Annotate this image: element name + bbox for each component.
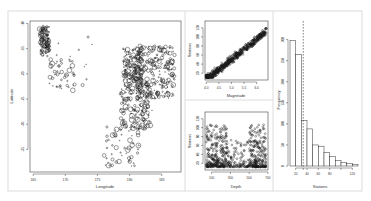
quake-point	[124, 56, 125, 57]
quake-point	[146, 111, 149, 114]
quake-point	[106, 147, 108, 149]
quake-point	[141, 55, 143, 57]
x-tick-label: 4.5	[217, 86, 222, 90]
quake-point	[157, 96, 158, 97]
quake-point	[149, 83, 153, 87]
point	[264, 133, 266, 135]
quake-point	[143, 128, 144, 129]
quake-point	[123, 49, 124, 50]
quake-point	[148, 88, 151, 91]
quake-point	[123, 67, 124, 68]
quake-point	[135, 114, 136, 115]
histogram-bar	[301, 121, 307, 166]
quake-point	[154, 82, 155, 83]
quake-point	[139, 72, 140, 73]
quake-point	[173, 53, 176, 56]
quake-point	[127, 83, 128, 84]
quake-point	[141, 123, 142, 124]
quake-point	[168, 98, 169, 99]
point	[231, 144, 233, 146]
depth-y-label: Stations	[187, 134, 192, 148]
point	[214, 148, 216, 150]
quake-point	[116, 136, 117, 137]
y-tick-label: 100	[196, 125, 200, 131]
point	[254, 131, 256, 133]
point	[216, 133, 218, 135]
y-tick-label: 100	[281, 121, 285, 127]
x-tick-label: 100	[209, 176, 215, 180]
quake-point	[102, 154, 106, 158]
quake-point	[134, 104, 136, 106]
quake-point	[150, 121, 152, 123]
x-tick-label: 500	[247, 176, 253, 180]
point	[257, 131, 259, 133]
magnitude-y-label: Stations	[187, 43, 192, 57]
quake-point	[138, 145, 139, 146]
histogram-bar	[347, 163, 353, 166]
quake-point	[70, 88, 75, 93]
quake-point	[134, 122, 135, 123]
y-tick-label: -35	[21, 147, 25, 152]
point	[210, 140, 212, 142]
y-tick-label: 150	[281, 100, 285, 106]
quake-point	[123, 102, 124, 103]
quake-point	[46, 55, 48, 57]
quake-point	[108, 162, 109, 163]
point	[262, 151, 264, 153]
quake-point	[152, 64, 153, 65]
quake-point	[143, 92, 144, 93]
point	[232, 159, 234, 161]
magnitude-x-axis: 4.04.55.05.56.0	[204, 82, 259, 90]
quake-point	[173, 78, 174, 79]
quake-point	[114, 146, 118, 150]
x-tick-label: 300	[228, 176, 234, 180]
quake-point	[56, 74, 57, 75]
point	[213, 129, 215, 131]
quake-point	[126, 153, 127, 154]
quake-point	[59, 73, 60, 74]
quake-point	[110, 133, 115, 138]
quake-point	[143, 96, 144, 97]
point	[220, 149, 222, 151]
quake-point	[48, 26, 49, 27]
point	[264, 147, 266, 149]
point	[262, 154, 264, 156]
quake-point	[148, 56, 149, 57]
point	[240, 160, 242, 162]
figure-canvas: 165170175180185 -10-15-20-25-30-35 Longi…	[0, 0, 371, 201]
quake-point	[45, 51, 46, 52]
quake-point	[60, 59, 63, 62]
y-tick-label: -15	[21, 46, 25, 51]
quake-point	[168, 74, 169, 75]
quake-point	[141, 81, 142, 82]
quake-point	[67, 68, 72, 73]
quake-point	[158, 65, 159, 66]
quake-point	[162, 95, 164, 97]
quake-point	[134, 127, 135, 128]
quake-point	[158, 46, 161, 49]
y-tick-label: 20	[196, 161, 200, 165]
quake-point	[167, 87, 168, 88]
quake-point	[111, 158, 114, 161]
quake-point	[105, 165, 106, 166]
quake-point	[156, 81, 158, 83]
point	[212, 148, 214, 150]
point	[262, 126, 264, 128]
x-tick-label: 4.0	[204, 86, 209, 90]
depth-points	[205, 124, 267, 168]
y-tick-label: 40	[196, 152, 200, 156]
quake-point	[124, 80, 125, 81]
quake-point	[126, 148, 131, 153]
quake-point	[144, 52, 147, 55]
map-panel: 165170175180185 -10-15-20-25-30-35 Longi…	[9, 21, 181, 189]
quake-point	[66, 84, 68, 86]
y-tick-label: 60	[196, 143, 200, 147]
quake-point	[92, 44, 93, 45]
quake-point	[171, 81, 172, 82]
x-tick-label: 175	[95, 178, 101, 182]
point	[233, 151, 235, 153]
map-x-axis: 165170175180185	[30, 174, 164, 182]
point	[256, 146, 258, 148]
quake-point	[73, 85, 74, 86]
quake-point	[86, 79, 87, 80]
